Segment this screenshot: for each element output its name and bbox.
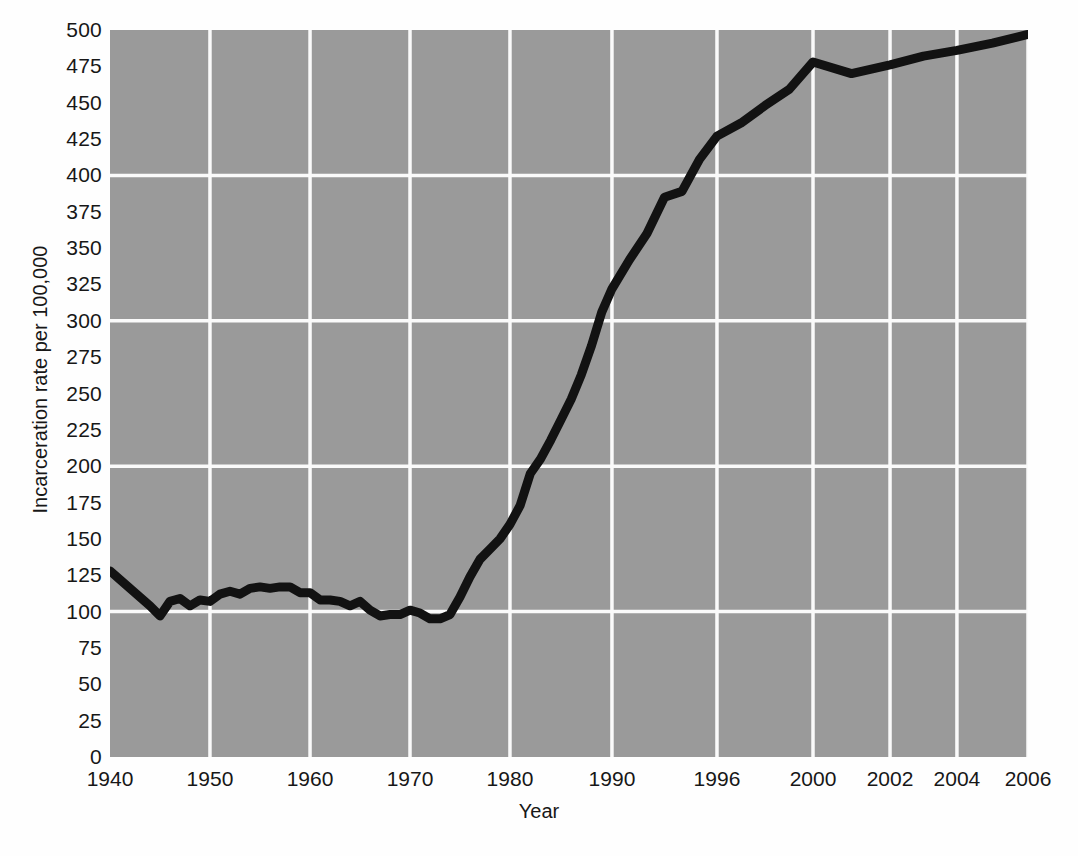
x-axis-tick-label: 2002 <box>867 767 914 791</box>
chart-figure: 5004754504254003753503253002752502252001… <box>0 0 1078 856</box>
x-axis-tick-label: 1950 <box>187 767 234 791</box>
x-axis-tick-label: 2000 <box>790 767 837 791</box>
x-axis-tick-label: 1940 <box>87 767 134 791</box>
x-axis-tick-label: 1960 <box>287 767 334 791</box>
y-axis-title: Incarceration rate per 100,000 <box>29 190 52 570</box>
x-axis-tick-label: 1990 <box>589 767 636 791</box>
x-axis-tick-labels: 1940195019601970198019901996200020022004… <box>0 0 1078 856</box>
x-axis-tick-label: 2004 <box>934 767 981 791</box>
x-axis-title: Year <box>0 800 1078 823</box>
x-axis-tick-label: 1970 <box>387 767 434 791</box>
x-axis-tick-label: 1996 <box>694 767 741 791</box>
x-axis-tick-label: 2006 <box>1005 767 1052 791</box>
x-axis-tick-label: 1980 <box>487 767 534 791</box>
